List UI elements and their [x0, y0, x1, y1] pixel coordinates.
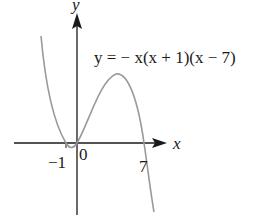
tick-label-0: 0	[79, 145, 88, 164]
tick-label-7: 7	[139, 157, 148, 176]
y-axis-label: y	[70, 0, 80, 14]
x-axis-label: x	[172, 134, 181, 153]
equation-label: y = − x(x + 1)(x − 7)	[94, 48, 236, 67]
cubic-graph: y x y = − x(x + 1)(x − 7) −1 0 7	[0, 0, 266, 215]
tick-label-neg1: −1	[48, 153, 66, 172]
